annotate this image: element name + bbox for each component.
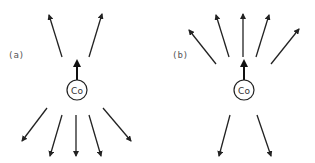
arrow-icon (103, 108, 131, 141)
co-atom-label: Co (71, 86, 83, 96)
arrow-icon (189, 30, 216, 64)
arrow-icon (256, 15, 269, 57)
arrow-icon (89, 115, 101, 156)
arrow-icon (271, 29, 299, 64)
arrow-icon (219, 115, 230, 156)
arrow-icon (22, 108, 47, 141)
arrow-icon (89, 14, 102, 57)
upper-arrows-a (49, 14, 102, 57)
lower-arrows-a (22, 108, 131, 156)
arrow-icon (257, 115, 271, 156)
arrow-icon (216, 15, 229, 57)
co-atom-label: Co (238, 86, 250, 96)
panel-a: Co (22, 14, 131, 156)
panel-b: Co (189, 14, 299, 156)
upper-arrows-b (189, 14, 299, 64)
panel-label-a: (a) (8, 50, 24, 60)
arrow-icon (49, 15, 62, 57)
diagram-canvas: Co Co (0, 0, 315, 163)
panel-label-b: (b) (172, 50, 188, 60)
arrow-icon (50, 115, 62, 156)
lower-arrows-b (219, 115, 271, 156)
